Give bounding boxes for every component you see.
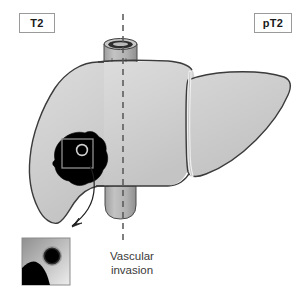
- liver-middle-segment: [104, 62, 196, 186]
- stage-label-clinical: T2: [19, 13, 55, 33]
- stage-label-pathological: pT2: [254, 13, 292, 33]
- inferior-vessel-icon: [105, 186, 136, 219]
- liver-right-lobe: [186, 72, 290, 177]
- vascular-invasion-caption: Vascular invasion: [84, 249, 180, 277]
- magnified-inset: [22, 238, 70, 285]
- liver-staging-figure: T2 pT2 Vascular invasion: [0, 0, 304, 293]
- caption-line-1: Vascular: [84, 249, 180, 263]
- caption-line-2: invasion: [84, 263, 180, 277]
